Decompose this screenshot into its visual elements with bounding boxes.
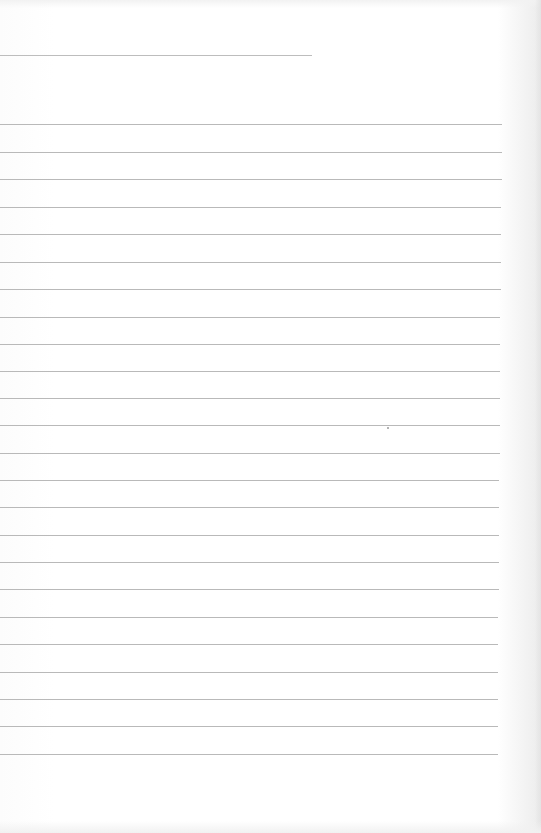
ruled-line bbox=[0, 262, 501, 263]
ruled-line bbox=[0, 207, 501, 208]
ruled-line bbox=[0, 371, 500, 372]
ruled-line bbox=[0, 699, 498, 700]
ruled-line bbox=[0, 672, 498, 673]
ruled-line bbox=[0, 317, 500, 318]
ruled-line bbox=[0, 234, 501, 235]
ruled-line bbox=[0, 124, 502, 125]
ruled-line bbox=[0, 535, 499, 536]
ruled-line bbox=[0, 617, 498, 618]
ruled-line bbox=[0, 562, 499, 563]
ruled-line bbox=[0, 398, 500, 399]
ruled-line bbox=[0, 754, 498, 755]
ruled-line bbox=[0, 344, 500, 345]
ruled-line bbox=[0, 453, 500, 454]
right-edge-shadow bbox=[535, 0, 541, 833]
ruled-line bbox=[0, 289, 501, 290]
top-edge-shadow bbox=[0, 0, 541, 8]
ruled-line bbox=[0, 480, 499, 481]
paper-speck bbox=[387, 427, 389, 429]
ruled-line bbox=[0, 726, 498, 727]
ruled-line bbox=[0, 152, 502, 153]
bottom-edge-shadow bbox=[0, 821, 541, 833]
header-rule bbox=[0, 55, 312, 56]
ruled-line bbox=[0, 507, 499, 508]
ruled-paper-sheet bbox=[0, 0, 541, 833]
ruled-line bbox=[0, 179, 502, 180]
ruled-line bbox=[0, 425, 500, 426]
ruled-line bbox=[0, 589, 499, 590]
ruled-line bbox=[0, 644, 498, 645]
